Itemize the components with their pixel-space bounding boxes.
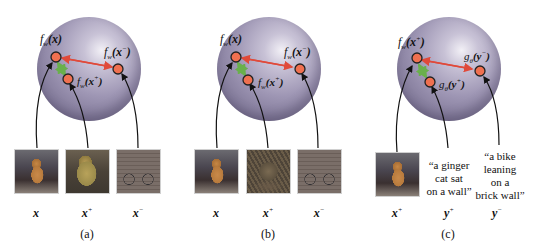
negative-caption-text: “a bike leaning on a brick wall” [474,150,526,202]
anchor-image-cat [375,152,420,197]
negative-image-bike [116,149,161,194]
panel-c: fw(x+) gθ(y−) gθ(y+) “a ginger cat sat o… [356,0,534,246]
var-x-plus: x+ [248,207,288,219]
positive-embedding-label: fw(x+) [258,76,283,91]
var-x: x [16,207,56,219]
panel-a: fw(x) fw(x−) fw(x+) x x+ x− (a) [0,0,178,246]
negative-point [475,66,485,76]
positive-point [63,74,73,84]
panel-caption: (c) [428,228,468,240]
anchor-embedding-label: fw(x) [40,33,62,48]
anchor-point [231,52,241,62]
positive-embedding-label: gθ(y+) [439,78,465,93]
anchor-image-cat [14,149,59,194]
attract-arrow [419,65,426,77]
positive-image-cat [65,149,110,194]
anchor-point [412,53,422,63]
positive-embedding-label: fw(x+) [77,75,102,90]
negative-point [295,64,305,74]
panel-caption: (a) [67,228,107,240]
panel-caption: (b) [248,228,288,240]
anchor-image-cat [194,149,239,194]
negative-image-bike [297,149,342,194]
var-x-plus: x+ [377,207,417,219]
var-x-minus: x− [118,207,158,219]
var-y-plus: y+ [429,207,469,219]
panel-b: fw(x) fw(x−) fw(x+) x x+ x− (b) [180,0,358,246]
positive-caption-text: “a ginger cat sat on a wall” [424,159,474,198]
positive-point [425,77,435,87]
anchor-embedding-label: fw(x+) [398,36,425,51]
attract-arrow [58,63,65,75]
anchor-point [51,52,61,62]
negative-point [113,64,123,74]
var-x: x [196,207,236,219]
attract-arrow [238,63,245,75]
negative-embedding-label: fw(x−) [104,46,131,61]
var-x-minus: x− [299,207,339,219]
var-x-plus: x+ [67,207,107,219]
positive-point [243,75,253,85]
positive-image-tabby-cat [246,149,291,194]
var-y-minus: y− [477,207,517,219]
anchor-embedding-label: fw(x) [220,33,242,48]
negative-embedding-label: gθ(y−) [464,50,490,65]
negative-embedding-label: fw(x−) [284,46,311,61]
